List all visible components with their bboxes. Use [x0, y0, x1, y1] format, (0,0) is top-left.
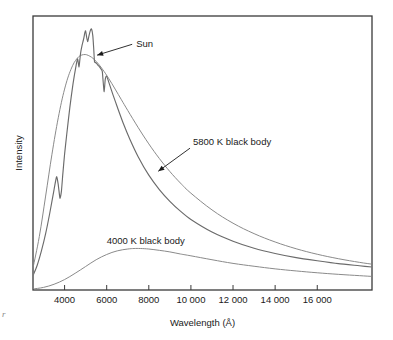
spectrum-figure: 40006000800010 00012 00014 00016 000Wave… — [0, 0, 393, 340]
annotation-label-sun: Sun — [136, 38, 153, 49]
figure-background — [0, 0, 393, 340]
x-tick-label: 12 000 — [218, 294, 247, 305]
y-axis-title: Intensity — [13, 135, 24, 171]
annotation-label-bb4000: 4000 K black body — [107, 235, 185, 246]
scan-artifact-mark: r — [2, 309, 6, 319]
x-tick-label: 14 000 — [261, 294, 290, 305]
x-tick-label: 16 000 — [303, 294, 332, 305]
x-tick-label: 8000 — [138, 294, 159, 305]
x-tick-label: 6000 — [96, 294, 117, 305]
x-tick-label: 4000 — [54, 294, 75, 305]
x-tick-label: 10 000 — [176, 294, 205, 305]
spectrum-plot: 40006000800010 00012 00014 00016 000Wave… — [0, 0, 393, 340]
x-axis-title: Wavelength (Å) — [170, 317, 235, 328]
annotation-label-bb5800: 5800 K black body — [193, 136, 271, 147]
